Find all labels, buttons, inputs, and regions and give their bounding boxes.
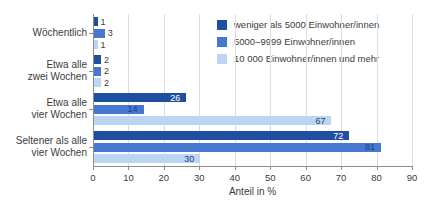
bar bbox=[94, 78, 101, 87]
bar-value-label: 2 bbox=[104, 56, 109, 65]
x-axis-tick-label: 40 bbox=[229, 172, 240, 183]
bar-value-label: 72 bbox=[333, 132, 343, 141]
bar bbox=[94, 116, 331, 125]
x-axis-tick bbox=[128, 166, 129, 170]
x-axis-tick bbox=[412, 166, 413, 170]
x-axis-tick bbox=[199, 166, 200, 170]
x-axis-tick-label: 60 bbox=[300, 172, 311, 183]
bar bbox=[94, 29, 105, 38]
bar-value-label: 2 bbox=[104, 67, 109, 76]
bar-value-label: 1 bbox=[101, 18, 106, 27]
plot-area: 0102030405060708090 131222261467728130 bbox=[93, 14, 412, 166]
x-axis-tick-label: 80 bbox=[371, 172, 382, 183]
x-axis-tick bbox=[164, 166, 165, 170]
x-axis-tick-label: 0 bbox=[90, 172, 95, 183]
bar-value-label: 26 bbox=[170, 94, 180, 103]
bar-value-label: 30 bbox=[184, 155, 194, 164]
x-axis-tick bbox=[235, 166, 236, 170]
bar bbox=[94, 55, 101, 64]
category-label: Etwa alle vier Wochen bbox=[32, 97, 87, 122]
bar bbox=[94, 17, 98, 26]
x-axis-tick-label: 10 bbox=[123, 172, 134, 183]
bar bbox=[94, 143, 381, 152]
x-axis-line bbox=[93, 166, 413, 167]
category-label: Seltener als alle vier Wochen bbox=[16, 135, 87, 160]
x-axis-tick bbox=[306, 166, 307, 170]
bar-value-label: 81 bbox=[365, 143, 375, 152]
gridline bbox=[412, 14, 413, 166]
bar bbox=[94, 40, 98, 49]
bar-value-label: 3 bbox=[108, 29, 113, 38]
x-axis-tick-label: 90 bbox=[407, 172, 418, 183]
x-axis-tick bbox=[377, 166, 378, 170]
x-axis-tick bbox=[93, 166, 94, 170]
y-axis-tick bbox=[89, 71, 93, 72]
bar bbox=[94, 131, 349, 140]
bar-value-label: 67 bbox=[315, 117, 325, 126]
x-axis-tick-label: 70 bbox=[336, 172, 347, 183]
bar-value-label: 2 bbox=[104, 79, 109, 88]
x-axis-tick-label: 20 bbox=[159, 172, 170, 183]
category-label: Wöchentlich bbox=[33, 27, 87, 40]
y-axis-tick bbox=[89, 33, 93, 34]
x-axis-tick bbox=[270, 166, 271, 170]
bar bbox=[94, 67, 101, 76]
category-label: Etwa alle zwei Wochen bbox=[28, 59, 87, 84]
y-axis-tick bbox=[89, 109, 93, 110]
y-axis-tick bbox=[89, 147, 93, 148]
x-axis-tick bbox=[341, 166, 342, 170]
x-axis-tick-label: 30 bbox=[194, 172, 205, 183]
x-axis-tick-label: 50 bbox=[265, 172, 276, 183]
x-axis-title: Anteil in % bbox=[93, 186, 412, 197]
bar-value-label: 14 bbox=[128, 105, 138, 114]
bar-value-label: 1 bbox=[101, 41, 106, 50]
bar-chart: weniger als 5000 Einwohner/innen 5000–99… bbox=[0, 0, 425, 206]
